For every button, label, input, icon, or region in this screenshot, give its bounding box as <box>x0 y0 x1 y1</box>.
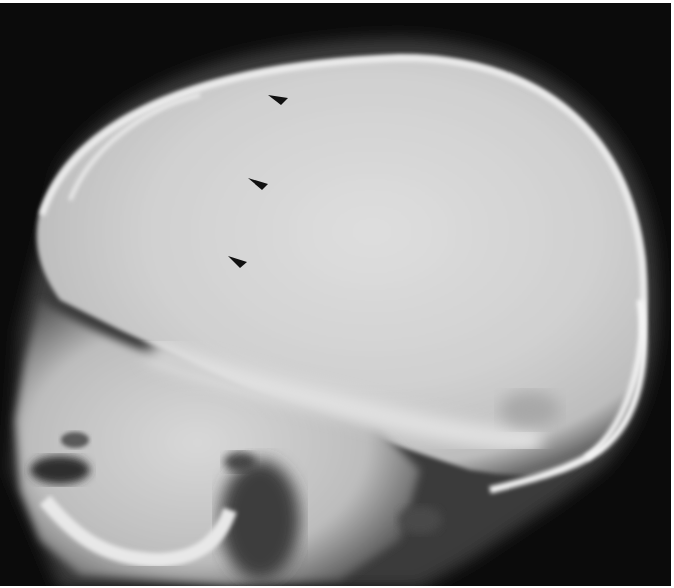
skull-xray <box>0 3 671 586</box>
mastoid-shadow <box>398 506 442 534</box>
radiograph-frame <box>0 3 671 586</box>
orbit-shadow <box>61 432 89 448</box>
posterior-fossa-shadow <box>500 392 560 428</box>
nasal-shadow <box>30 456 90 484</box>
